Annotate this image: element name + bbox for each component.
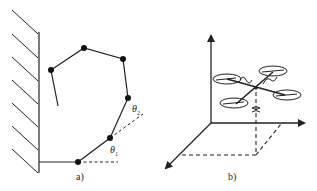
- panel-b-label: b): [228, 172, 236, 182]
- panel-b-quadrotor: [166, 36, 304, 168]
- wall-hatching: [12, 10, 38, 173]
- panel-a-manipulator: [12, 10, 143, 173]
- y-axis: [166, 123, 211, 168]
- panel-a-label: a): [76, 172, 84, 182]
- diagram-canvas: [0, 0, 317, 191]
- theta2-label: θ2: [132, 104, 140, 116]
- drone-center: [254, 86, 257, 89]
- rotation-symbols: [240, 77, 277, 112]
- theta1-label: θ1: [110, 145, 118, 157]
